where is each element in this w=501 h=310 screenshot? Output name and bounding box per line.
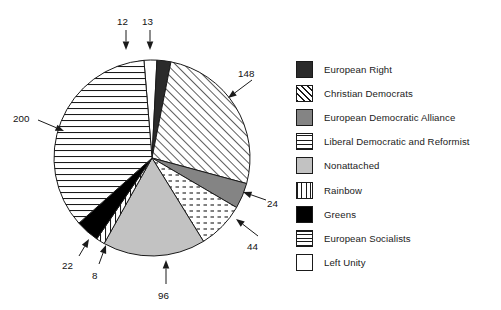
legend-swatch-solid-white — [296, 254, 313, 271]
legend-item[interactable]: Left Unity — [296, 251, 501, 275]
legend-swatch-solid-dark — [296, 61, 313, 78]
legend-item[interactable]: European Democratic Alliance — [296, 105, 501, 129]
legend-item-label: Christian Democrats — [324, 88, 413, 99]
legend-swatch-solid-black — [296, 206, 313, 223]
leader-line — [79, 246, 85, 256]
legend-item-label: Nonattached — [324, 160, 380, 171]
legend-swatch-horizontal-lines — [296, 230, 313, 247]
leader-line — [243, 224, 258, 236]
legend-item-label: Left Unity — [324, 257, 366, 268]
leader-arrowhead — [236, 219, 245, 227]
legend-swatch-vertical-lines — [296, 182, 313, 199]
leader-arrowhead — [82, 239, 89, 248]
legend-item[interactable]: Nonattached — [296, 154, 501, 178]
legend-item[interactable]: European Right — [296, 57, 501, 81]
leader-line — [251, 195, 266, 200]
legend-item[interactable]: Christian Democrats — [296, 81, 501, 105]
pie-value-label: 8 — [92, 270, 97, 281]
legend-swatch-diagonal-hatch — [296, 85, 313, 102]
leader-line — [235, 80, 252, 93]
leader-arrowhead — [147, 42, 154, 51]
pie-value-label: 44 — [247, 241, 258, 252]
pie-chart-plot-area: 1213148200244422896 — [0, 0, 290, 310]
leader-line — [99, 253, 103, 264]
legend-swatch-solid-gray — [296, 109, 313, 126]
pie-slices-group — [54, 60, 250, 256]
chart-legend: European RightChristian DemocratsEuropea… — [296, 57, 501, 275]
legend-item-label: Liberal Democratic and Reformist — [324, 136, 470, 147]
legend-swatch-solid-lightgray — [296, 157, 313, 174]
pie-value-label: 148 — [238, 68, 254, 79]
pie-value-label: 13 — [142, 16, 153, 27]
leader-arrowhead — [163, 260, 170, 269]
pie-value-label: 200 — [13, 113, 29, 124]
legend-item-label: European Right — [324, 64, 392, 75]
legend-item[interactable]: Rainbow — [296, 178, 501, 202]
leader-arrowhead — [100, 245, 106, 254]
legend-item[interactable]: European Socialists — [296, 226, 501, 250]
pie-value-label: 96 — [158, 290, 169, 301]
leader-line — [38, 120, 56, 128]
leader-arrowhead — [243, 192, 252, 198]
pie-value-label: 12 — [117, 16, 128, 27]
legend-swatch-dotted-dash — [296, 133, 313, 150]
pie-chart-figure: 1213148200244422896 European RightChrist… — [0, 0, 501, 310]
leader-arrowhead — [123, 42, 130, 51]
legend-item[interactable]: Greens — [296, 202, 501, 226]
leader-arrowhead — [228, 90, 237, 98]
legend-item[interactable]: Liberal Democratic and Reformist — [296, 130, 501, 154]
legend-item-label: Greens — [324, 209, 356, 220]
legend-item-label: European Democratic Alliance — [324, 112, 455, 123]
pie-value-label: 24 — [267, 198, 278, 209]
legend-item-label: European Socialists — [324, 233, 411, 244]
legend-item-label: Rainbow — [324, 185, 362, 196]
pie-value-label: 22 — [62, 260, 73, 271]
pie-chart-svg — [0, 0, 290, 310]
